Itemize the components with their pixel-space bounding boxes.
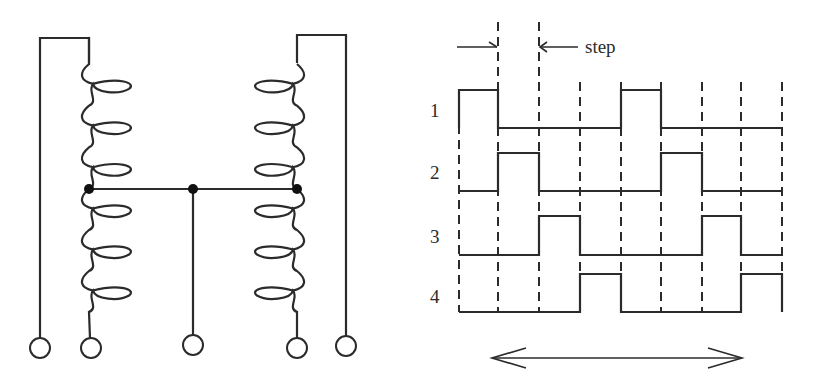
- winding-schematic: [30, 35, 356, 358]
- phase-1-waveform: [459, 90, 782, 128]
- step-annotation: step: [457, 22, 616, 80]
- terminal-4-connector: [336, 336, 356, 356]
- right-tap-junction-dot: [292, 184, 302, 194]
- left-coil-lead-bottom: [89, 312, 90, 338]
- phase-waveforms: [459, 90, 782, 312]
- phase-label-2: 2: [430, 162, 440, 183]
- terminal-2-connector: [81, 338, 101, 358]
- left-coil-lower-winding: [82, 189, 131, 312]
- phase-label-1: 1: [430, 100, 440, 121]
- right-coil-lower-winding: [255, 189, 304, 312]
- phase-label-3: 3: [430, 226, 440, 247]
- phase-label-4: 4: [430, 286, 440, 307]
- phase-4-waveform: [459, 274, 782, 312]
- left-coil-upper-winding: [82, 64, 131, 189]
- terminal-3-connector: [287, 338, 307, 358]
- left-tap-junction-dot: [84, 184, 94, 194]
- terminal-common-connector: [183, 335, 203, 355]
- period-double-arrow: [492, 348, 742, 368]
- left-outer-wire: [40, 38, 89, 338]
- right-coil-upper-winding: [255, 64, 304, 189]
- right-outer-wire: [297, 35, 346, 336]
- step-label: step: [585, 36, 616, 57]
- phase-labels: 1 2 3 4: [430, 100, 440, 307]
- terminal-1-connector: [30, 338, 50, 358]
- common-tap-junction-dot: [188, 184, 198, 194]
- phase-timing-diagram: 1 2 3 4 step: [430, 22, 782, 368]
- stepper-figure: 1 2 3 4 step: [0, 0, 814, 392]
